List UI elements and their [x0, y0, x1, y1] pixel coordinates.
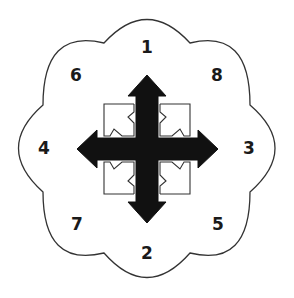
corner-marker-top-right — [160, 104, 190, 136]
label-5: 5 — [212, 216, 224, 233]
label-6: 6 — [70, 67, 82, 84]
corner-marker-bottom-right — [160, 162, 190, 194]
label-7: 7 — [71, 216, 83, 233]
diagram-canvas: 1 8 3 5 2 7 4 6 — [0, 0, 294, 298]
label-8: 8 — [211, 67, 223, 84]
label-4: 4 — [38, 140, 50, 157]
label-2: 2 — [141, 245, 153, 262]
corner-marker-bottom-left — [104, 162, 134, 194]
label-1: 1 — [141, 39, 153, 56]
move-arrow-icon — [77, 75, 218, 223]
corner-marker-top-left — [104, 104, 134, 136]
label-3: 3 — [243, 140, 255, 157]
